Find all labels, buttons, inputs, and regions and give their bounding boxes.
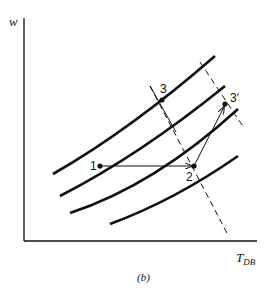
figure-caption: (b) (137, 271, 150, 284)
point-3p-label: 3′ (230, 91, 240, 105)
point-3-label: 3 (160, 82, 167, 96)
point-2 (191, 163, 196, 168)
curve-1 (53, 56, 215, 174)
point-3p (222, 101, 227, 106)
point-1-label: 1 (90, 159, 97, 173)
x-axis-label: TDB (236, 250, 256, 267)
dashed-line-left (150, 86, 228, 235)
point-2-label: 2 (186, 170, 193, 184)
y-axis-label: w (9, 14, 18, 29)
psychrometric-diagram: w TDB (b) 1 2 3 3′ (0, 0, 271, 294)
point-1 (97, 163, 102, 168)
point-3 (159, 97, 164, 102)
arrow-2-to-3p (194, 107, 224, 166)
